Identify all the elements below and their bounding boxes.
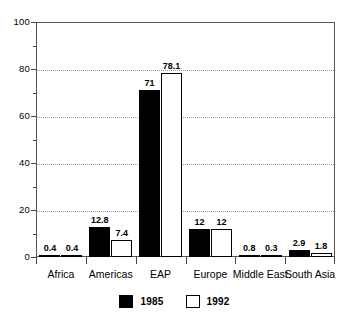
bar-container: 12: [189, 22, 210, 257]
bar[interactable]: [161, 73, 182, 257]
bar[interactable]: [139, 90, 160, 257]
bar-group: 7178.1: [136, 22, 186, 257]
x-tick: [36, 257, 37, 264]
x-category-label: South Asia: [285, 268, 335, 280]
bar-value-label: 0.8: [243, 244, 256, 253]
legend-label: 1992: [207, 297, 230, 307]
bar-group: 0.80.3: [235, 22, 285, 257]
x-category-label: EAP: [150, 268, 171, 280]
bar-container: 12: [211, 22, 232, 257]
bars-layer: 0.40.412.87.47178.112120.80.32.91.8: [36, 22, 335, 257]
legend-label: 1985: [140, 297, 163, 307]
bar-container: 1.8: [311, 22, 332, 257]
bar[interactable]: [89, 227, 110, 257]
bar-value-label: 1.8: [315, 242, 328, 251]
legend-entry[interactable]: 1985: [119, 295, 163, 308]
legend-swatch: [119, 295, 133, 308]
chart-legend: 19851992: [0, 295, 349, 308]
bar-container: 7.4: [111, 22, 132, 257]
y-tick-label: 60: [19, 111, 30, 121]
x-axis-ticks: [36, 257, 335, 265]
bar-value-label: 0.4: [44, 244, 57, 253]
legend-swatch: [186, 295, 200, 308]
x-category-label: Africa: [47, 268, 74, 280]
bar-value-label: 0.3: [265, 244, 278, 253]
x-tick: [334, 257, 335, 264]
bar-value-label: 71: [145, 79, 155, 88]
bar-value-label: 12: [216, 218, 226, 227]
bar[interactable]: [289, 250, 310, 257]
y-tick-label: 0: [25, 252, 30, 262]
y-tick-label: 40: [19, 158, 30, 168]
bar-chart-figure: 020406080100 0.40.412.87.47178.112120.80…: [0, 0, 349, 322]
bar-group: 12.87.4: [86, 22, 136, 257]
bar-group: 1212: [186, 22, 236, 257]
bar-container: 12.8: [89, 22, 110, 257]
x-tick: [86, 257, 87, 264]
bar-value-label: 12.8: [91, 216, 109, 225]
x-category-label: Europe: [193, 268, 227, 280]
bar-container: 78.1: [161, 22, 182, 257]
bar-value-label: 78.1: [163, 62, 181, 71]
bar[interactable]: [211, 229, 232, 257]
legend-entry[interactable]: 1992: [186, 295, 230, 308]
x-axis-labels: AfricaAmericasEAPEuropeMiddle EastSouth …: [0, 268, 349, 284]
x-tick: [285, 257, 286, 264]
bar-value-label: 12: [194, 218, 204, 227]
bar[interactable]: [189, 229, 210, 257]
bar-container: 0.3: [261, 22, 282, 257]
x-category-label: Middle East: [233, 268, 288, 280]
bar-container: 71: [139, 22, 160, 257]
bar-value-label: 2.9: [293, 239, 306, 248]
y-tick-label: 80: [19, 64, 30, 74]
bar-container: 2.9: [289, 22, 310, 257]
bar-value-label: 7.4: [115, 229, 128, 238]
bar[interactable]: [111, 240, 132, 257]
bar-value-label: 0.4: [66, 244, 79, 253]
bar-group: 2.91.8: [285, 22, 335, 257]
bar-container: 0.4: [39, 22, 60, 257]
x-tick: [186, 257, 187, 264]
x-tick: [136, 257, 137, 264]
x-category-label: Americas: [89, 268, 133, 280]
x-tick: [235, 257, 236, 264]
bar-container: 0.4: [61, 22, 82, 257]
bar-group: 0.40.4: [36, 22, 86, 257]
bar-container: 0.8: [239, 22, 260, 257]
y-tick-label: 100: [14, 17, 30, 27]
y-tick-label: 20: [19, 205, 30, 215]
